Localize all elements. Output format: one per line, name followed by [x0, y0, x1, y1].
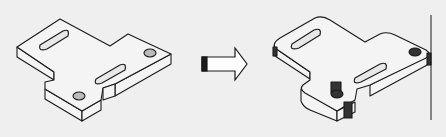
fillet-diagram — [0, 0, 446, 137]
arrow-icon — [202, 48, 247, 80]
part-after-filleted — [273, 15, 431, 121]
part-before-sharp — [17, 19, 171, 121]
